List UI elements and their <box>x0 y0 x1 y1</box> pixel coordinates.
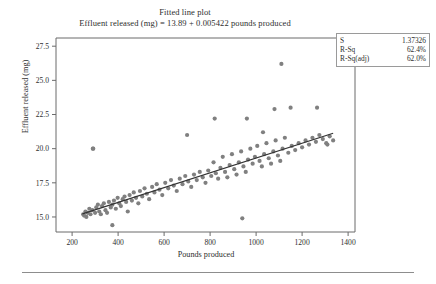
data-point <box>160 193 164 197</box>
stats-label-rsq: R-Sq <box>340 45 355 54</box>
stats-row: R-Sq 62.4% <box>340 45 426 54</box>
data-point <box>203 181 207 185</box>
data-point <box>136 201 140 205</box>
y-tick-label: 20.0 <box>36 144 49 153</box>
stats-row: S 1.37326 <box>340 36 426 45</box>
data-point <box>213 117 217 121</box>
data-point <box>122 194 126 198</box>
data-point <box>192 173 196 177</box>
data-point <box>155 182 159 186</box>
data-point <box>88 212 92 216</box>
data-point <box>150 185 154 189</box>
data-point <box>110 223 114 227</box>
data-point <box>221 155 225 159</box>
data-point <box>241 164 245 168</box>
data-point <box>147 197 151 201</box>
data-point <box>116 196 120 200</box>
data-point <box>209 174 213 178</box>
data-point <box>132 190 136 194</box>
data-point <box>276 153 280 157</box>
data-point <box>93 211 97 215</box>
data-point <box>189 185 193 189</box>
y-tick-label: 15.0 <box>36 213 49 222</box>
data-point <box>230 152 234 156</box>
data-point <box>317 133 321 137</box>
stats-label-rsq-adj: R-Sq(adj) <box>340 54 369 63</box>
y-axis-ticks: 15.017.520.022.525.027.5 <box>36 42 56 222</box>
data-point <box>239 149 243 153</box>
stats-value-rsq-adj: 62.0% <box>407 54 426 63</box>
data-point <box>232 167 236 171</box>
data-point <box>206 168 210 172</box>
data-point <box>142 186 146 190</box>
data-point <box>223 170 227 174</box>
fitted-line-plot-figure: Fitted line plot Effluent released (mg) … <box>0 0 436 284</box>
y-tick-label: 25.0 <box>36 76 49 85</box>
y-tick-label: 27.5 <box>36 42 49 51</box>
data-point <box>272 107 276 111</box>
data-point <box>102 201 106 205</box>
data-point <box>278 159 282 163</box>
data-point <box>198 170 202 174</box>
data-point <box>128 193 132 197</box>
data-point <box>269 162 273 166</box>
data-point <box>112 198 116 202</box>
data-point <box>185 133 189 137</box>
data-point <box>91 147 95 151</box>
data-point <box>257 159 261 163</box>
data-point <box>267 156 271 160</box>
y-tick-label: 22.5 <box>36 110 49 119</box>
data-point <box>260 164 264 168</box>
x-tick-label: 1200 <box>295 238 310 247</box>
fitted-regression-line <box>82 133 333 214</box>
data-point <box>195 178 199 182</box>
data-point <box>283 136 287 140</box>
data-point <box>114 207 118 211</box>
data-point <box>331 138 335 142</box>
data-point <box>248 147 252 151</box>
data-point <box>138 189 142 193</box>
x-tick-label: 1000 <box>249 238 264 247</box>
data-point <box>211 160 215 164</box>
data-point <box>314 140 318 144</box>
data-point <box>245 117 249 121</box>
x-tick-label: 200 <box>66 238 78 247</box>
plot-axes <box>56 38 355 232</box>
x-tick-label: 1400 <box>341 238 356 247</box>
x-tick-label: 800 <box>204 238 216 247</box>
y-axis-title: Effluent released (mg) <box>21 27 30 167</box>
data-point <box>279 62 283 66</box>
data-point <box>234 173 238 177</box>
data-point <box>315 106 319 110</box>
data-point <box>255 144 259 148</box>
y-tick-label: 17.5 <box>36 179 49 188</box>
data-point <box>163 181 167 185</box>
footer-divider <box>22 272 414 273</box>
data-point <box>325 142 329 146</box>
data-point <box>264 141 268 145</box>
data-point <box>251 162 255 166</box>
data-point <box>169 178 173 182</box>
x-tick-label: 400 <box>112 238 124 247</box>
data-point <box>107 200 111 204</box>
data-point <box>307 142 311 146</box>
data-point <box>225 175 229 179</box>
data-point <box>240 216 244 220</box>
data-point <box>261 130 265 134</box>
data-point <box>99 212 103 216</box>
data-point <box>126 209 130 213</box>
stats-label-s: S <box>340 36 344 45</box>
stats-value-s: 1.37326 <box>402 36 426 45</box>
data-point <box>216 177 220 181</box>
data-point <box>293 148 297 152</box>
data-point <box>274 138 278 142</box>
x-axis-ticks: 200400600800100012001400 <box>66 232 355 247</box>
stats-row: R-Sq(adj) 62.0% <box>340 54 426 63</box>
data-point <box>178 177 182 181</box>
data-point <box>96 203 100 207</box>
data-point <box>105 211 109 215</box>
data-point <box>286 151 290 155</box>
data-point <box>175 189 179 193</box>
x-tick-label: 600 <box>158 238 170 247</box>
x-axis-title: Pounds produced <box>56 250 356 259</box>
